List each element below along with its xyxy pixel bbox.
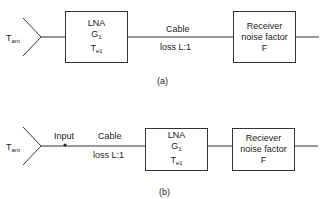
receiver-title: Receiver (247, 21, 283, 32)
caption-a: (a) (157, 76, 168, 86)
lna-temp: Te1 (170, 155, 182, 169)
cable-label-a: Cable (166, 24, 190, 34)
caption-b: (b) (159, 187, 170, 197)
antenna-temp-label-a: Tant (6, 33, 20, 46)
cable-loss-b: loss L:1 (93, 150, 124, 160)
lna-name: LNA (88, 18, 106, 29)
lna-block-a: LNA G1 Te1 (65, 11, 128, 63)
lna-gain: G1 (171, 141, 181, 155)
input-label: Input (54, 131, 74, 141)
lna-temp: Te1 (90, 43, 102, 57)
lna-block-b: LNA G1 Te1 (145, 128, 208, 171)
receiver-block-a: Receiver noise factor F (233, 11, 296, 63)
receiver-f: F (261, 155, 267, 166)
receiver-subtitle: noise factor (240, 144, 287, 155)
receiver-title: Reciever (246, 133, 282, 144)
input-node (63, 143, 66, 146)
lna-gain: G1 (91, 29, 101, 43)
receiver-block-b: Reciever noise factor F (232, 128, 295, 171)
antenna-temp-label-b: Tant (6, 142, 20, 155)
cable-label-b: Cable (98, 131, 122, 141)
receiver-f: F (262, 43, 268, 54)
lna-name: LNA (168, 130, 186, 141)
receiver-subtitle: noise factor (241, 32, 288, 43)
cable-loss-a: loss L:1 (160, 42, 191, 52)
